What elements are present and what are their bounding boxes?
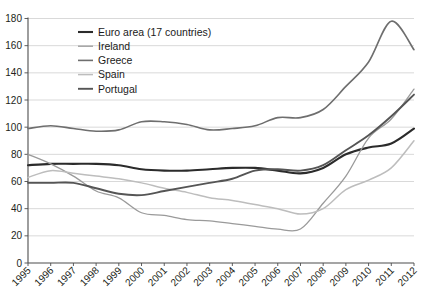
x-axis-tick-label: 2000	[123, 264, 147, 288]
x-axis-tick-label: 2007	[282, 264, 306, 288]
legend-label: Spain	[98, 68, 125, 80]
chart-canvas: 020406080100120140160180 199519961997199…	[0, 0, 425, 293]
x-axis-tick-label: 1999	[100, 264, 124, 288]
x-axis-tick-label: 2002	[168, 264, 192, 288]
series-line-portugal	[28, 95, 414, 196]
series-line-euro-area-17-countries	[28, 129, 414, 174]
x-axis-tick-label: 1996	[32, 264, 56, 288]
y-axis-tick-label: 60	[11, 176, 23, 187]
y-axis-ticks: 020406080100120140160180	[5, 13, 28, 269]
gridlines	[28, 19, 414, 236]
x-axis-tick-label: 2005	[236, 264, 260, 288]
y-axis-tick-label: 100	[5, 122, 22, 133]
x-axis-tick-label: 2003	[191, 264, 215, 288]
x-axis-tick-label: 1997	[55, 264, 79, 288]
x-axis-tick-label: 2006	[259, 264, 283, 288]
y-axis-tick-label: 120	[5, 95, 22, 106]
x-axis-tick-label: 1995	[9, 264, 33, 288]
series-line-ireland	[28, 89, 414, 231]
data-series	[28, 21, 414, 231]
series-line-greece	[28, 21, 414, 131]
x-axis-ticks: 1995199619971998199920002001200220032004…	[9, 263, 419, 288]
y-axis-tick-label: 40	[11, 203, 23, 214]
y-axis-tick-label: 20	[11, 230, 23, 241]
line-chart: 020406080100120140160180 199519961997199…	[0, 0, 425, 293]
legend-label: Portugal	[98, 83, 137, 95]
x-axis-tick-label: 2010	[350, 264, 374, 288]
x-axis-tick-label: 2009	[327, 264, 351, 288]
y-axis-tick-label: 80	[11, 149, 23, 160]
chart-legend: Euro area (17 countries)IrelandGreeceSpa…	[78, 26, 211, 95]
legend-label: Euro area (17 countries)	[98, 26, 211, 38]
y-axis-tick-label: 160	[5, 40, 22, 51]
x-axis-tick-label: 2011	[373, 264, 396, 287]
x-axis-tick-label: 1998	[78, 264, 102, 288]
legend-label: Ireland	[98, 40, 130, 52]
x-axis-tick-label: 2004	[214, 264, 238, 288]
x-axis-tick-label: 2008	[305, 264, 329, 288]
x-axis-tick-label: 2001	[146, 264, 170, 288]
legend-label: Greece	[98, 54, 133, 66]
y-axis-tick-label: 180	[5, 13, 22, 24]
y-axis-tick-label: 140	[5, 67, 22, 78]
x-axis-tick-label: 2012	[395, 264, 419, 288]
